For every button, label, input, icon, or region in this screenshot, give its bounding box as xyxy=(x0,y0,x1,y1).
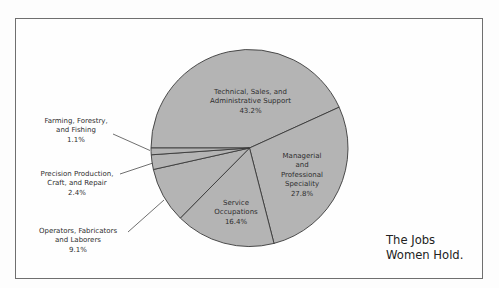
label-operators: Operators, Fabricators and Laborers 9.1% xyxy=(32,227,124,255)
label-precision-value: 2.4% xyxy=(32,189,122,198)
label-technical-line1: Technical, Sales, and xyxy=(198,88,303,97)
label-farming-line1: Farming, Forestry, xyxy=(36,117,116,126)
label-managerial: Managerial and Professional Speciality 2… xyxy=(272,152,332,199)
chart-title-line2: Women Hold. xyxy=(386,248,463,263)
label-managerial-line1: Managerial xyxy=(272,152,332,161)
chart-title-line1: The Jobs xyxy=(386,233,463,248)
label-farming: Farming, Forestry, and Fishing 1.1% xyxy=(36,117,116,145)
label-farming-value: 1.1% xyxy=(36,136,116,145)
label-operators-value: 9.1% xyxy=(32,246,124,255)
label-operators-line2: and Laborers xyxy=(32,236,124,245)
label-service-line2: Occupations xyxy=(206,208,266,217)
label-managerial-line3: Professional xyxy=(272,171,332,180)
label-service-line1: Service xyxy=(206,199,266,208)
leader-line-precision xyxy=(120,163,153,174)
leader-line-farming xyxy=(113,134,150,151)
label-operators-line1: Operators, Fabricators xyxy=(32,227,124,236)
label-service-value: 16.4% xyxy=(206,218,266,227)
label-technical-line2: Administrative Support xyxy=(198,97,303,106)
label-precision-line2: Craft, and Repair xyxy=(32,179,122,188)
label-technical: Technical, Sales, and Administrative Sup… xyxy=(198,88,303,116)
label-managerial-line4: Speciality xyxy=(272,180,332,189)
chart-title: The Jobs Women Hold. xyxy=(386,233,463,263)
leader-line-operators xyxy=(128,200,164,232)
label-service: Service Occupations 16.4% xyxy=(206,199,266,227)
label-precision-line1: Precision Production, xyxy=(32,170,122,179)
label-farming-line2: and Fishing xyxy=(36,126,116,135)
label-managerial-line2: and xyxy=(272,161,332,170)
label-technical-value: 43.2% xyxy=(198,107,303,116)
label-managerial-value: 27.8% xyxy=(272,190,332,199)
label-precision: Precision Production, Craft, and Repair … xyxy=(32,170,122,198)
